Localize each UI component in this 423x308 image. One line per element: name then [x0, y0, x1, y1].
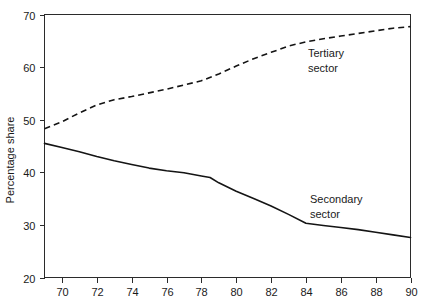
x-tick-label: 86 [335, 286, 347, 298]
x-tick-label: 78 [195, 286, 207, 298]
x-tick-label: 74 [126, 286, 138, 298]
x-tick-label: 80 [230, 286, 242, 298]
series-line-tertiary-sector [45, 27, 411, 129]
secondary-label-line1: Secondary [310, 193, 363, 205]
y-tick-label: 40 [23, 167, 35, 179]
x-tick-label: 76 [161, 286, 173, 298]
line-chart: 203040506070 7072747678808284868890 Perc… [0, 0, 423, 308]
y-tick-label: 20 [23, 273, 35, 285]
plot-frame [45, 15, 411, 278]
y-tick-label: 30 [23, 220, 35, 232]
secondary-label-line2: sector [310, 208, 340, 220]
y-axis: 203040506070 [23, 10, 44, 285]
y-tick-label: 70 [23, 10, 35, 22]
x-tick-label: 82 [265, 286, 277, 298]
series-annotation-tertiary: Tertiary sector [308, 47, 345, 74]
chart-screenshot: 203040506070 7072747678808284868890 Perc… [0, 0, 423, 308]
x-tick-label: 88 [370, 286, 382, 298]
x-tick-label: 70 [56, 286, 68, 298]
y-tick-label: 50 [23, 115, 35, 127]
tertiary-label-line2: sector [308, 62, 338, 74]
x-axis: 7072747678808284868890 [56, 278, 417, 298]
x-tick-label: 84 [300, 286, 312, 298]
x-tick-label: 90 [405, 286, 417, 298]
y-axis-title: Percentage share [4, 117, 16, 204]
series-line-secondary-sector [45, 143, 411, 237]
x-tick-label: 72 [91, 286, 103, 298]
series-annotation-secondary: Secondary sector [310, 193, 363, 220]
tertiary-label-line1: Tertiary [308, 47, 345, 59]
y-tick-label: 60 [23, 62, 35, 74]
